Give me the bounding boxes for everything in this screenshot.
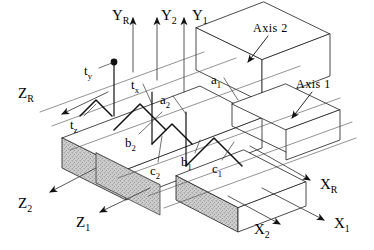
axis-label-y-1: Y1 <box>192 8 208 26</box>
figure-canvas: YRY2Y1ZRZ2Z1XRX2X1tytxtza1a2b2b1c2c1Axis… <box>0 0 374 250</box>
dimension-label-a-1: a1 <box>211 73 221 89</box>
axis-label-z-2: Z2 <box>18 196 32 214</box>
dimension-label-t-x: tx <box>131 78 139 94</box>
axis-label-y-r: YR <box>112 8 129 26</box>
axis-label-x-1: X1 <box>334 216 350 234</box>
diagram-vector-layer <box>0 0 374 250</box>
dimension-label-c-2: c2 <box>150 164 160 180</box>
dimension-label-t-y: ty <box>84 64 92 80</box>
callout-label-axis-2: Axis 2 <box>253 22 288 34</box>
axis-label-z-r: ZR <box>18 86 34 104</box>
dimension-label-a-2: a2 <box>160 93 170 109</box>
dimension-label-b-1: b1 <box>181 155 192 171</box>
axis-label-x-r: XR <box>320 177 337 195</box>
dimension-label-t-z: tz <box>70 118 77 134</box>
dimension-label-c-1: c1 <box>212 162 222 178</box>
origin-point-marker <box>111 59 118 66</box>
callout-label-axis-1: Axis 1 <box>296 78 331 90</box>
axis-arrows-y <box>133 18 184 92</box>
axis-label-y-2: Y2 <box>161 8 177 26</box>
axis-label-x-2: X2 <box>254 222 270 240</box>
dimension-label-b-2: b2 <box>125 136 136 152</box>
axis-label-z-1: Z1 <box>76 215 90 233</box>
